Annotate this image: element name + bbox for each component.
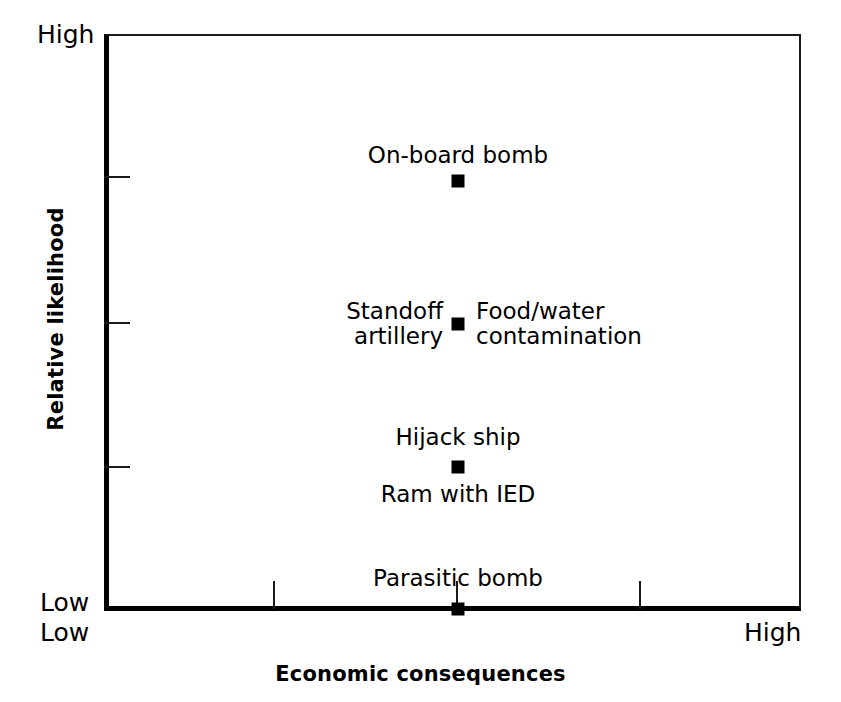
standoff-artillery-line-1: Standoff [346, 298, 443, 324]
data-point-on-board-bomb [452, 175, 465, 188]
data-point-parasitic-bomb [452, 603, 465, 616]
point-label-ram-with-ied: Ram with IED [381, 482, 535, 507]
data-point-standoff-artillery-food-water [452, 318, 465, 331]
food-water-line-1: Food/water [476, 298, 604, 324]
point-label-parasitic-bomb: Parasitic bomb [373, 566, 543, 591]
x-axis-tick-1 [273, 581, 275, 609]
y-axis-low-label: Low [40, 590, 89, 615]
x-axis-title: Economic consequences [0, 662, 841, 686]
data-point-hijack-ship-ram-with-ied [452, 461, 465, 474]
x-axis-tick-3 [639, 581, 641, 609]
y-axis-tick-2 [104, 322, 130, 324]
risk-matrix-chart: High Low Low High Relative likelihood Ec… [0, 0, 841, 702]
y-axis-title: Relative likelihood [44, 169, 68, 469]
point-label-standoff-artillery: Standoffartillery [346, 299, 443, 348]
y-axis-high-label: High [37, 22, 94, 47]
point-label-food-water-contamination: Food/watercontamination [476, 299, 642, 348]
x-axis-high-label: High [744, 620, 801, 645]
y-axis-tick-3 [104, 466, 130, 468]
x-axis-low-label: Low [40, 620, 89, 645]
point-label-hijack-ship: Hijack ship [396, 425, 521, 450]
point-label-on-board-bomb: On-board bomb [368, 143, 548, 168]
standoff-artillery-line-2: artillery [354, 323, 443, 349]
food-water-line-2: contamination [476, 323, 642, 349]
y-axis-tick-1 [104, 176, 130, 178]
